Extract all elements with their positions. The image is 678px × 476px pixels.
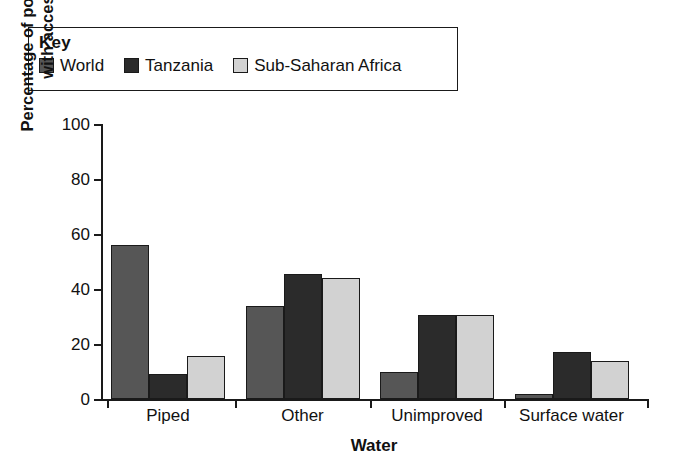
bar-piped-sub-saharan-africa	[187, 356, 225, 399]
chart-legend: Key World Tanzania Sub-Saharan Africa	[28, 27, 458, 91]
x-axis-category-label: Piped	[146, 406, 189, 426]
plot-area: 020406080100PipedOtherUnimprovedSurface …	[101, 124, 649, 401]
y-axis-tick-label: 20	[71, 336, 90, 353]
y-axis-tick	[94, 344, 103, 346]
legend-entry-tanzania: Tanzania	[124, 56, 213, 75]
x-axis-category-label: Surface water	[519, 406, 624, 426]
x-axis-tick	[235, 399, 237, 408]
bar-piped-tanzania	[149, 374, 187, 399]
legend-swatch-tanzania-icon	[124, 58, 139, 73]
x-axis-category-label: Unimproved	[391, 406, 483, 426]
bar-piped-world	[111, 245, 149, 399]
x-axis-title: Water	[101, 436, 647, 456]
y-axis-title-line1: Percentage of population	[18, 0, 36, 132]
y-axis-tick-label: 0	[81, 391, 90, 408]
x-axis-category-label: Other	[281, 406, 324, 426]
legend-label-sub-saharan-africa: Sub-Saharan Africa	[254, 56, 401, 75]
bar-surface-water-tanzania	[553, 352, 591, 399]
y-axis-tick-label: 100	[62, 116, 90, 133]
bar-unimproved-sub-saharan-africa	[456, 315, 494, 399]
y-axis-tick-label: 40	[71, 281, 90, 298]
y-axis-tick-label: 80	[71, 171, 90, 188]
y-axis-tick	[94, 234, 103, 236]
legend-swatch-sub-saharan-africa-icon	[233, 58, 248, 73]
bar-other-sub-saharan-africa	[322, 278, 360, 399]
bar-surface-water-sub-saharan-africa	[591, 361, 629, 400]
y-axis-tick	[94, 179, 103, 181]
y-axis-title-line2: with access	[38, 0, 56, 79]
bar-unimproved-world	[380, 372, 418, 400]
legend-entries: World Tanzania Sub-Saharan Africa	[39, 56, 449, 75]
x-axis-tick	[504, 399, 506, 408]
bar-unimproved-tanzania	[418, 315, 456, 399]
bar-surface-water-world	[515, 394, 553, 400]
y-axis-tick-label: 60	[71, 226, 90, 243]
bar-other-world	[246, 306, 284, 400]
legend-entry-sub-saharan-africa: Sub-Saharan Africa	[233, 56, 401, 75]
legend-label-tanzania: Tanzania	[145, 56, 213, 75]
legend-label-world: World	[60, 56, 104, 75]
x-axis-tick	[647, 399, 649, 408]
legend-title: Key	[39, 33, 449, 53]
x-axis-tick	[370, 399, 372, 408]
y-axis-tick	[94, 399, 103, 401]
x-axis-tick	[107, 399, 109, 408]
y-axis-tick	[94, 124, 103, 126]
y-axis-title: Percentage of population with access	[14, 0, 60, 170]
y-axis-tick	[94, 289, 103, 291]
bar-chart-figure: Key World Tanzania Sub-Saharan Africa Pe…	[0, 0, 678, 476]
bar-other-tanzania	[284, 274, 322, 399]
